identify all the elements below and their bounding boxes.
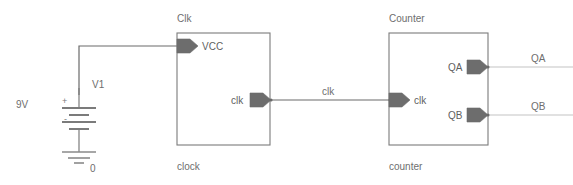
source-reference-label: V1 [92,79,105,90]
pin-label-counter-qb: QB [448,110,463,121]
minus-terminal-label: - [64,114,67,124]
block-clk-instance-label: Clk [177,13,192,24]
ground-node-label: 0 [90,163,96,174]
block-counter-type-label: counter [389,161,423,172]
block-counter-instance-label: Counter [389,13,425,24]
ground-symbol[interactable] [62,152,96,163]
circuit-schematic-canvas: 9V V1 + - 0 Clk clock VCC clk Counter co… [0,0,573,185]
net-qb-wire[interactable] [487,114,573,117]
pin-label-counter-qa: QA [448,62,463,73]
net-qa-wire[interactable] [487,66,573,69]
block-clk-type-label: clock [177,161,201,172]
pin-label-counter-clk: clk [414,95,427,106]
net-clk-wire[interactable] [269,98,391,101]
plus-terminal-label: + [62,96,67,106]
pin-label-clk-out: clk [231,95,244,106]
block-counter[interactable] [389,33,488,145]
net-label-qa: QA [531,53,546,64]
source-voltage-label: 9V [16,99,29,110]
net-label-clk: clk [322,86,335,97]
net-label-qb: QB [531,101,546,112]
pin-label-clk-vcc: VCC [202,41,223,52]
